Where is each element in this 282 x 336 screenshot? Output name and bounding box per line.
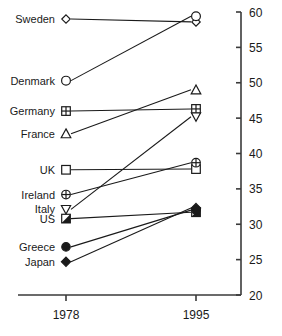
marker-us-1978 (62, 214, 71, 223)
series-label-uk: UK (40, 164, 56, 176)
marker-germany-1978 (62, 107, 71, 116)
slope-chart: SwedenDenmarkGermanyFranceUKIrelandItaly… (0, 0, 282, 336)
series-label-france: France (21, 128, 55, 140)
series-label-us: US (40, 213, 55, 225)
series-label-denmark: Denmark (10, 75, 55, 87)
y-tick-label-35: 35 (249, 182, 263, 196)
marker-uk-1978 (62, 165, 71, 174)
y-tick-label-55: 55 (249, 41, 263, 55)
x-tick-label-1978: 1978 (53, 308, 80, 322)
y-tick-label-60: 60 (249, 6, 263, 20)
series-label-sweden: Sweden (15, 13, 55, 25)
y-tick-label-30: 30 (249, 218, 263, 232)
series-label-ireland: Ireland (21, 189, 55, 201)
series-label-greece: Greece (19, 241, 55, 253)
y-tick-label-25: 25 (249, 253, 263, 267)
y-tick-label-50: 50 (249, 76, 263, 90)
marker-denmark-1978 (62, 76, 71, 85)
marker-germany-1995 (192, 105, 201, 114)
y-tick-label-45: 45 (249, 112, 263, 126)
slope-line-uk (71, 169, 191, 170)
series-label-japan: Japan (25, 256, 55, 268)
marker-ireland-1995 (192, 158, 201, 167)
marker-ireland-1978 (62, 190, 71, 199)
y-tick-label-20: 20 (249, 289, 263, 303)
y-tick-label-40: 40 (249, 147, 263, 161)
marker-greece-1978 (62, 243, 70, 251)
series-label-germany: Germany (10, 105, 56, 117)
marker-denmark-1995 (192, 12, 201, 21)
x-tick-label-1995: 1995 (183, 308, 210, 322)
slope-chart-canvas: SwedenDenmarkGermanyFranceUKIrelandItaly… (0, 0, 282, 336)
